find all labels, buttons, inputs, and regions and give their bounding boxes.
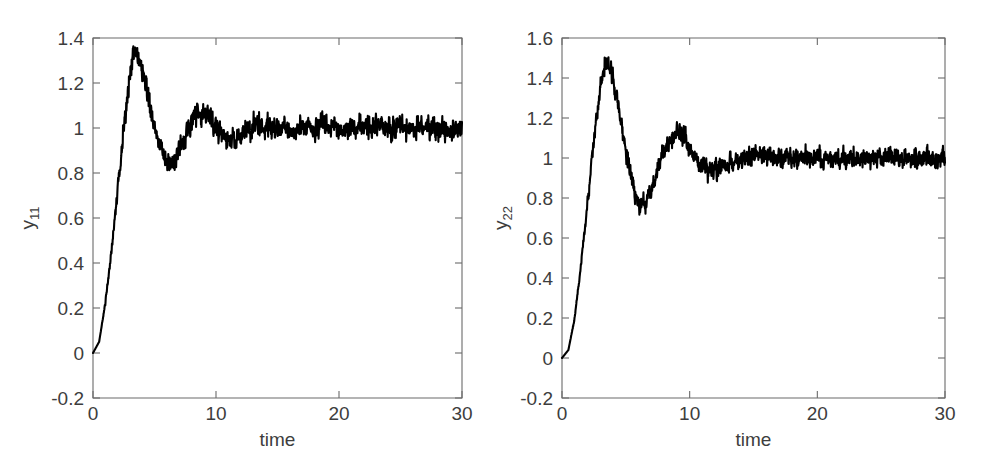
- y-tick-label: 1.4: [58, 28, 85, 49]
- y-tick-label: 0: [73, 343, 84, 364]
- x-axis-title: time: [736, 429, 772, 450]
- x-tick-label: 20: [328, 403, 349, 424]
- y-axis-title: y11: [17, 207, 42, 230]
- data-curve: [562, 57, 945, 358]
- y-tick-label: 0: [542, 348, 553, 369]
- x-tick-label: 0: [88, 403, 99, 424]
- x-tick-label: 10: [205, 403, 226, 424]
- y-tick-label: 1.6: [527, 28, 553, 49]
- y-tick-label: 0.2: [58, 298, 84, 319]
- y-tick-label: 0.6: [58, 208, 84, 229]
- x-axis-title: time: [260, 429, 296, 450]
- y-tick-label: -0.2: [520, 388, 553, 409]
- x-tick-label: 10: [679, 403, 700, 424]
- figure-canvas: -0.200.20.40.60.811.21.40102030timey11 -…: [0, 0, 983, 459]
- y-tick-label: 1.2: [58, 73, 84, 94]
- y-axis-title: y22: [491, 206, 515, 230]
- y-tick-label: 0.4: [58, 253, 85, 274]
- svg-text:y11: y11: [17, 207, 42, 230]
- y-tick-label: 0.4: [527, 268, 554, 289]
- svg-text:y22: y22: [491, 206, 515, 230]
- plot-area-y22: -0.200.20.40.60.811.21.41.60102030timey2…: [491, 0, 983, 459]
- y-tick-label: 0.8: [527, 188, 553, 209]
- plot-area-y11: -0.200.20.40.60.811.21.40102030timey11: [0, 0, 491, 459]
- chart-panel-y11: -0.200.20.40.60.811.21.40102030timey11: [0, 0, 491, 459]
- y-tick-label: 1: [542, 148, 553, 169]
- y-tick-label: 0.8: [58, 163, 84, 184]
- y-tick-label: -0.2: [51, 388, 84, 409]
- x-tick-label: 20: [807, 403, 828, 424]
- y-tick-label: 1.2: [527, 108, 553, 129]
- axes-box: [562, 38, 945, 398]
- data-curve: [93, 46, 462, 353]
- y-tick-label: 0.2: [527, 308, 553, 329]
- x-tick-label: 30: [934, 403, 955, 424]
- y-tick-label: 1.4: [527, 68, 554, 89]
- x-tick-label: 0: [557, 403, 568, 424]
- y-tick-label: 0.6: [527, 228, 553, 249]
- x-tick-label: 30: [451, 403, 472, 424]
- y-tick-label: 1: [73, 118, 84, 139]
- chart-panel-y22: -0.200.20.40.60.811.21.41.60102030timey2…: [491, 0, 983, 459]
